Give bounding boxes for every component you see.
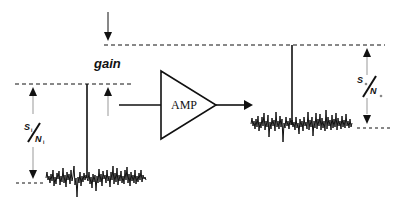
amp-output-arrow-icon (244, 100, 253, 110)
amp-label: AMP (171, 98, 197, 112)
svg-text:i: i (43, 139, 45, 145)
gain-up-arrow-icon (104, 87, 112, 116)
svg-text:S: S (357, 75, 363, 85)
output-snr-up-arrow-icon (363, 48, 371, 75)
svg-text:N: N (35, 134, 42, 144)
input-noise-trace (46, 166, 146, 197)
output-snr-label: S N (357, 75, 382, 97)
input-snr-up-arrow-icon (29, 87, 37, 114)
output-noise-trace (251, 110, 352, 142)
svg-text:i: i (31, 127, 33, 133)
svg-text:N: N (370, 86, 377, 96)
gain-down-arrow-icon (104, 12, 112, 41)
svg-text:S: S (24, 122, 30, 132)
gain-label: gain (93, 56, 121, 71)
input-snr-label: S i N i (24, 122, 45, 145)
input-snr-down-arrow-icon (29, 147, 37, 179)
amplifier-snr-diagram: gain S i N i S N AMP (0, 0, 400, 207)
output-snr-down-arrow-icon (363, 98, 371, 124)
amplifier-block: AMP (119, 71, 253, 139)
